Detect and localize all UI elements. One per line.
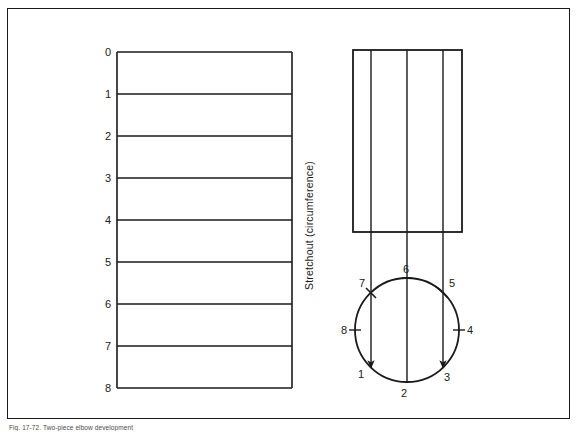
stretchout-axis-label: Stretchout (circumference): [303, 161, 315, 290]
stretchout-label-4: 4: [105, 214, 111, 226]
plan-point-label-1: 1: [358, 368, 364, 380]
stretchout-label-1: 1: [105, 88, 111, 100]
diagram-canvas: 0 1 2 3 4 5 6 7 8 Stretchout (circumfere…: [0, 0, 577, 436]
plan-point-label-2: 2: [401, 387, 407, 399]
plan-point-label-4: 4: [467, 324, 473, 336]
figure-root: 0 1 2 3 4 5 6 7 8 Stretchout (circumfere…: [0, 0, 577, 436]
stretchout-grid: 0 1 2 3 4 5 6 7 8: [105, 46, 292, 394]
stretchout-label-3: 3: [105, 172, 111, 184]
stretchout-label-7: 7: [105, 340, 111, 352]
plan-point-label-7: 7: [359, 277, 365, 289]
plan-point-label-8: 8: [341, 324, 347, 336]
plan-point-label-6: 6: [403, 263, 409, 275]
stretchout-label-5: 5: [105, 256, 111, 268]
stretchout-label-2: 2: [105, 130, 111, 142]
stretchout-label-0: 0: [105, 46, 111, 58]
stretchout-label-6: 6: [105, 298, 111, 310]
plan-point-label-5: 5: [449, 277, 455, 289]
plan-point-label-3: 3: [444, 371, 450, 383]
projection-lines: [371, 50, 443, 382]
figure-caption: Fig. 17-72. Two-piece elbow development: [9, 424, 549, 431]
stretchout-label-8: 8: [105, 382, 111, 394]
